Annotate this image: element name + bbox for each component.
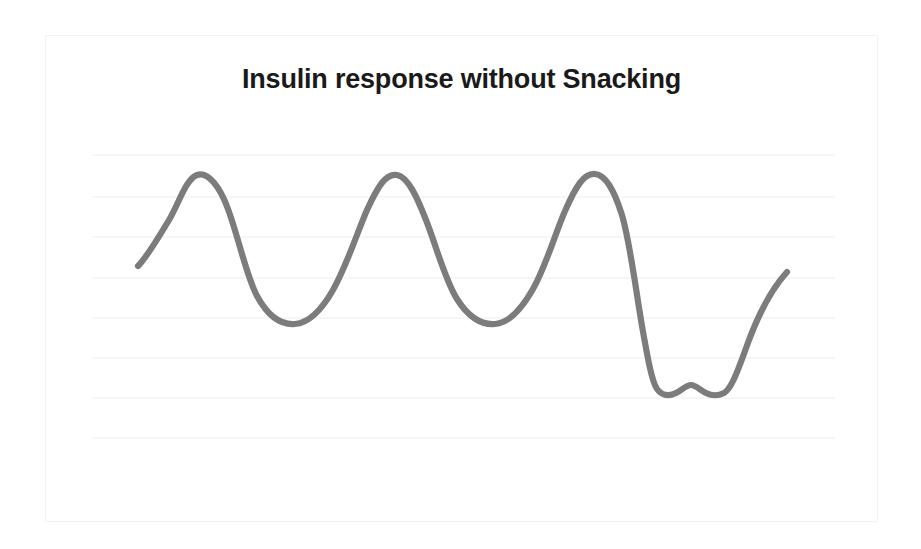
insulin-response-curve-svg <box>45 35 878 522</box>
insulin-level-line-series <box>138 174 787 395</box>
figure-page: Insulin response without Snacking <box>0 0 921 549</box>
plot-area <box>45 35 878 522</box>
